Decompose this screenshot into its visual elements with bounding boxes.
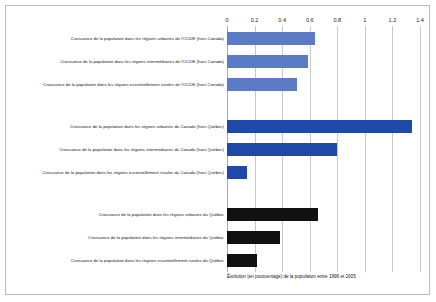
bar-category-label: Croissance de la population dans les rég… — [99, 206, 224, 223]
x-tick-label: 0.4 — [278, 14, 286, 26]
bar-category-label: Croissance de la population dans les rég… — [43, 76, 224, 93]
x-axis-tick-labels: 00.20.40.60.811.21.4 — [227, 14, 420, 26]
bar — [227, 208, 318, 221]
bar-row: Croissance de la population dans les rég… — [0, 118, 436, 135]
bar-row: Croissance de la population dans les rég… — [0, 141, 436, 158]
x-tick-label: 1 — [363, 14, 366, 26]
bar — [227, 254, 257, 267]
x-tick-label: 0.2 — [251, 14, 259, 26]
bar-rows: Croissance de la population dans les rég… — [0, 26, 436, 272]
bar — [227, 143, 337, 156]
x-axis-caption: Évolution (en pourcentage) de la populat… — [227, 272, 427, 282]
bar-category-label: Croissance de la population dans les rég… — [60, 53, 224, 70]
x-tick-label: 1.4 — [416, 14, 424, 26]
bar — [227, 78, 297, 91]
bar-row: Croissance de la population dans les rég… — [0, 164, 436, 181]
bar-row: Croissance de la population dans les rég… — [0, 229, 436, 246]
bar-category-label: Croissance de la population dans les rég… — [42, 164, 224, 181]
bar-category-label: Croissance de la population dans les rég… — [71, 252, 224, 269]
x-tick-label: 0.8 — [333, 14, 341, 26]
bar-row: Croissance de la population dans les rég… — [0, 252, 436, 269]
bar — [227, 32, 315, 45]
bar — [227, 55, 308, 68]
x-tick-label: 1.2 — [389, 14, 397, 26]
bar-category-label: Croissance de la population dans les rég… — [70, 118, 224, 135]
bar-row: Croissance de la population dans les rég… — [0, 206, 436, 223]
chart-figure: 00.20.40.60.811.21.4 Croissance de la po… — [0, 0, 436, 302]
x-tick-label: 0.6 — [306, 14, 314, 26]
bar-row: Croissance de la population dans les rég… — [0, 76, 436, 93]
bar-category-label: Croissance de la population dans les rég… — [71, 30, 224, 47]
bar — [227, 231, 280, 244]
bar-category-label: Croissance de la population dans les rég… — [59, 141, 224, 158]
bar-row: Croissance de la population dans les rég… — [0, 30, 436, 47]
bar — [227, 120, 412, 133]
x-tick-label: 0 — [225, 14, 228, 26]
bar-row: Croissance de la population dans les rég… — [0, 53, 436, 70]
bar-category-label: Croissance de la population dans les rég… — [88, 229, 224, 246]
bar — [227, 166, 247, 179]
